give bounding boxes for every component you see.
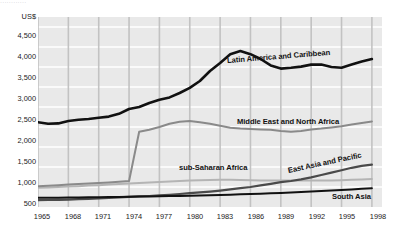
y-axis-tick: 1,000 xyxy=(2,179,36,187)
x-axis-tick: 1974 xyxy=(121,212,147,221)
y-axis-tick: 2,000 xyxy=(2,137,36,145)
x-axis-tick: 1986 xyxy=(243,212,269,221)
y-axis-tick: 4,000 xyxy=(2,53,36,61)
series-label-south-asia: South Asia xyxy=(332,192,371,201)
x-axis-tick: 1995 xyxy=(334,212,360,221)
y-axis: US$ 4,500 4,000 3,500 3,000 2,500 2,000 … xyxy=(0,0,36,236)
plot-area xyxy=(38,17,382,207)
x-axis-tick: 1968 xyxy=(60,212,86,221)
chart-figure: ············ US$ 4,500 4,000 3,500 3,000… xyxy=(0,0,403,236)
series-label-sub-saharan-africa: sub-Saharan Africa xyxy=(179,163,247,172)
y-axis-tick: 3,500 xyxy=(2,74,36,82)
clipped-caption: ············ xyxy=(0,0,403,8)
series-label-middle-east: Middle East and North Africa xyxy=(237,117,339,126)
x-axis-tick: 1965 xyxy=(29,212,55,221)
y-axis-unit: US$ xyxy=(2,13,36,21)
x-axis-tick: 1998 xyxy=(365,212,391,221)
chart-canvas xyxy=(38,17,382,207)
x-axis-tick: 1980 xyxy=(182,212,208,221)
x-axis-tick: 1983 xyxy=(212,212,238,221)
y-axis-tick: 500 xyxy=(2,200,36,208)
y-axis-tick: 1,500 xyxy=(2,158,36,166)
y-axis-tick: 3,000 xyxy=(2,95,36,103)
y-axis-tick: 2,500 xyxy=(2,116,36,124)
vertical-gridlines xyxy=(38,17,372,207)
x-axis-tick: 1989 xyxy=(273,212,299,221)
y-axis-tick: 4,500 xyxy=(2,32,36,40)
x-axis-tick: 1992 xyxy=(304,212,330,221)
x-axis-tick: 1971 xyxy=(90,212,116,221)
x-axis-tick: 1977 xyxy=(151,212,177,221)
